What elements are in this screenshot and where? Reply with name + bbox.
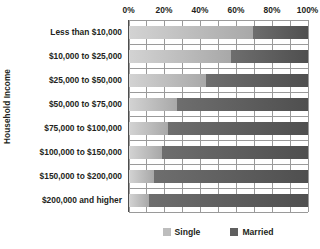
bar-segment-single — [129, 98, 177, 111]
bar-row — [129, 140, 308, 164]
bar-track — [129, 194, 308, 207]
bar-row — [129, 92, 308, 116]
bar-segment-single — [129, 50, 231, 63]
bar-row — [129, 116, 308, 140]
bar-row — [129, 20, 308, 44]
legend-label: Married — [242, 227, 273, 237]
bar-row — [129, 164, 308, 188]
legend-swatch-icon — [230, 228, 238, 236]
bar-segment-married — [162, 146, 308, 159]
category-label: $100,000 to $150,000 — [14, 140, 126, 164]
category-label: Less than $10,000 — [14, 20, 126, 44]
bar-segment-single — [129, 194, 149, 207]
legend-swatch-icon — [163, 228, 171, 236]
bar-track — [129, 122, 308, 135]
stacked-bar-chart: Household Income Less than $10,000$10,00… — [0, 0, 320, 249]
bar-segment-single — [129, 74, 206, 87]
legend-item[interactable]: Single — [163, 227, 201, 237]
x-axis-tick-label: 100% — [297, 5, 318, 15]
category-label: $50,000 to $75,000 — [14, 92, 126, 116]
category-label: $25,000 to $50,000 — [14, 68, 126, 92]
y-axis-title: Household Income — [0, 0, 14, 212]
bar-row — [129, 188, 308, 212]
category-label: $10,000 to $25,000 — [14, 44, 126, 68]
bar-row — [129, 68, 308, 92]
bar-segment-single — [129, 122, 168, 135]
bar-series-container — [129, 20, 308, 212]
x-axis-tick-label: 0% — [123, 5, 135, 15]
legend-label: Single — [175, 227, 201, 237]
bar-track — [129, 26, 308, 39]
bar-track — [129, 74, 308, 87]
x-axis-tick-label: 20% — [156, 5, 173, 15]
plot-area — [128, 20, 308, 212]
bar-track — [129, 146, 308, 159]
y-axis-title-label: Household Income — [3, 69, 12, 144]
chart-legend: SingleMarried — [128, 222, 308, 242]
bar-track — [129, 170, 308, 183]
bar-row — [129, 44, 308, 68]
bar-track — [129, 50, 308, 63]
bar-segment-married — [149, 194, 308, 207]
bar-segment-married — [177, 98, 308, 111]
y-axis-category-labels: Less than $10,000$10,000 to $25,000$25,0… — [14, 20, 126, 212]
x-axis-tick-label: 60% — [228, 5, 245, 15]
bar-segment-single — [129, 170, 154, 183]
x-axis-tick-label: 40% — [192, 5, 209, 15]
bar-segment-married — [253, 26, 308, 39]
bar-segment-married — [168, 122, 308, 135]
category-label: $200,000 and higher — [14, 188, 126, 212]
bar-segment-married — [154, 170, 308, 183]
x-axis-tick-labels: 0%20%40%60%80%100% — [128, 5, 308, 18]
category-label: $150,000 to $200,000 — [14, 164, 126, 188]
category-label: $75,000 to $100,000 — [14, 116, 126, 140]
bar-segment-single — [129, 26, 253, 39]
bar-segment-married — [231, 50, 308, 63]
x-axis-tick-label: 80% — [264, 5, 281, 15]
bar-track — [129, 98, 308, 111]
bar-segment-single — [129, 146, 162, 159]
bar-segment-married — [206, 74, 308, 87]
legend-item[interactable]: Married — [230, 227, 273, 237]
